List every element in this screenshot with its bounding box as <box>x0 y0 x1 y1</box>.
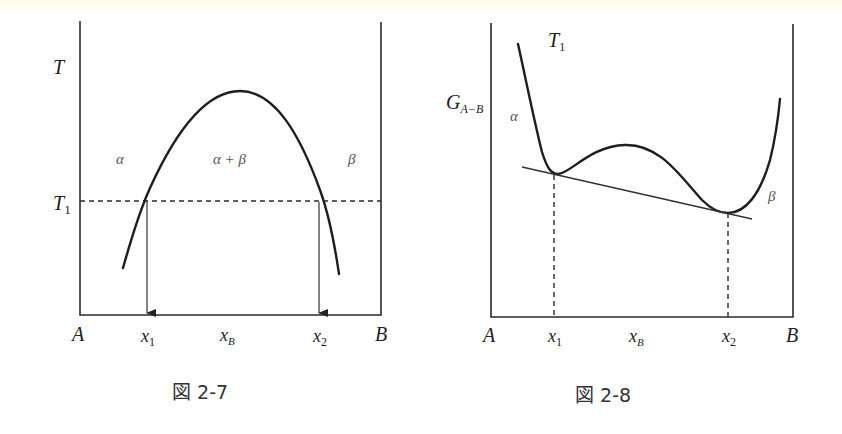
x-label-x2: x2 <box>721 326 736 349</box>
x-label-x1: x1 <box>140 326 155 349</box>
x-label-xb: xB <box>219 325 235 347</box>
gibbs-energy-curve <box>518 44 780 213</box>
t1-label: T1 <box>53 192 71 217</box>
caption-fig-2-8: 図 2-8 <box>575 384 631 406</box>
frame-2-7 <box>80 21 381 315</box>
x-label-xb: xB <box>628 326 644 348</box>
figure-2-8: T1 GA−B α β A x1 xB x2 B 図 2-8 <box>446 23 798 406</box>
phase-label-beta: β <box>767 188 776 204</box>
common-tangent-line <box>522 167 752 219</box>
caption-fig-2-7: 図 2-7 <box>172 381 228 403</box>
y-axis-label-g: GA−B <box>446 91 484 116</box>
figure-2-7: T T1 α α + β β A x1 xB x2 B 図 2-7 <box>53 21 387 403</box>
solvus-curve <box>123 91 339 274</box>
x-label-a: A <box>481 324 496 346</box>
phase-label-alpha-beta: α + β <box>213 151 246 167</box>
phase-label-beta: β <box>347 151 356 167</box>
phase-label-alpha: α <box>116 151 125 167</box>
temperature-label-t1: T1 <box>548 29 565 54</box>
x-label-x2: x2 <box>312 326 327 349</box>
x-label-b: B <box>375 323 387 345</box>
x-label-a: A <box>70 323 85 345</box>
phase-label-alpha: α <box>510 108 519 124</box>
x-label-b: B <box>786 324 798 346</box>
x-label-x1: x1 <box>547 326 562 349</box>
y-axis-label-t: T <box>53 56 66 78</box>
